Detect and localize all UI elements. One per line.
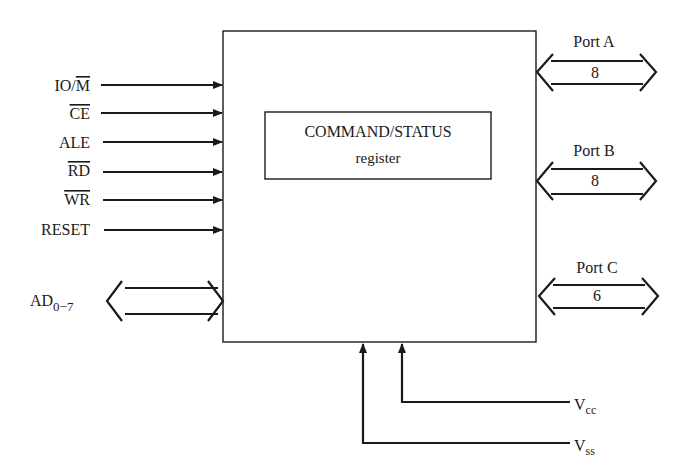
svg-text:Vcc: Vcc [574,396,596,417]
svg-text:WR: WR [64,191,90,208]
svg-text:Port A: Port A [573,33,615,50]
input-signal-io-m: IO/M [54,77,222,94]
svg-text:Port C: Port C [576,259,617,276]
input-signal-ce: CE [70,105,222,122]
bidirectional-bus-arrow-icon [107,281,223,321]
power-vcc: Vcc [402,344,596,417]
svg-text:Port B: Port B [573,142,614,159]
address-data-bus: AD0−7 [30,281,223,321]
svg-text:ALE: ALE [59,134,90,151]
svg-text:6: 6 [593,287,601,304]
input-signal-rd: RD [68,162,222,179]
port-b: Port B 8 [537,142,656,200]
svg-text:Vss: Vss [574,437,595,458]
arrow-up-icon [363,344,570,443]
register-title: COMMAND/STATUS [304,123,451,140]
svg-text:RESET: RESET [41,221,90,238]
svg-text:AD0−7: AD0−7 [30,292,74,314]
register-subtitle: register [356,150,401,166]
svg-text:RD: RD [68,162,90,179]
block-diagram: COMMAND/STATUS register IO/M CE ALE RD W… [0,0,690,468]
svg-text:IO/M: IO/M [54,77,90,94]
svg-text:8: 8 [591,64,599,81]
arrow-up-icon [402,344,570,402]
port-c: Port C 6 [539,259,658,315]
command-status-register: COMMAND/STATUS register [265,112,491,179]
port-a: Port A 8 [537,33,656,91]
input-signal-ale: ALE [59,134,222,151]
input-signal-reset: RESET [41,221,222,238]
chip-box [223,31,536,342]
input-signal-wr: WR [64,191,222,208]
svg-text:CE: CE [70,105,90,122]
overbar-m: M [76,77,90,94]
svg-text:8: 8 [591,172,599,189]
